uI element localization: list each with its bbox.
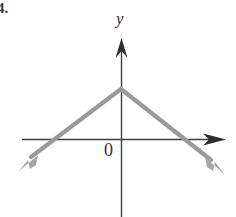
figure-container: 4. y 0: [0, 0, 236, 217]
axes-group: [22, 38, 226, 217]
y-axis-label: y: [116, 10, 124, 27]
origin-label: 0: [104, 141, 113, 159]
coordinate-plot: [0, 0, 236, 217]
graph-left-arrowhead-icon: [18, 155, 38, 172]
